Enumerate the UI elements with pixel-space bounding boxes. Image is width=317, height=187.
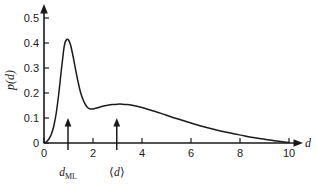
y-tick-label: 0.5 — [24, 12, 39, 24]
x-axis-tick-labels: 0 2 4 6 8 10 — [41, 147, 295, 159]
probability-density-curve — [44, 39, 289, 143]
annotation-label-dml: dML — [59, 166, 77, 181]
y-axis-tick-labels: 0 0.1 0.2 0.3 0.4 0.5 — [24, 12, 39, 149]
x-tick-label: 8 — [237, 147, 243, 159]
x-axis-title: d — [305, 136, 312, 150]
y-tick-label: 0.2 — [24, 87, 39, 99]
annotation-label-dmean-close: ⟩ — [120, 166, 125, 178]
x-tick-label: 10 — [283, 147, 295, 159]
y-tick-label: 0.3 — [24, 62, 39, 74]
y-axis — [40, 4, 48, 143]
y-tick-label: 0 — [33, 137, 39, 149]
y-axis-title-close: ) — [3, 70, 17, 75]
x-axis — [44, 139, 303, 147]
x-tick-label: 0 — [41, 147, 47, 159]
y-axis-title: p(d) — [3, 70, 17, 91]
y-tick-label: 0.4 — [24, 37, 39, 49]
x-tick-label: 6 — [188, 147, 194, 159]
annotation-label-dmean: ⟨d⟩ — [109, 166, 125, 178]
svg-text:p(d): p(d) — [3, 70, 17, 91]
x-tick-label: 4 — [139, 147, 145, 159]
chart-figure: 0 0.1 0.2 0.3 0.4 0.5 0 2 4 6 8 10 d — [0, 0, 317, 187]
annotation-label-dml-sub: ML — [65, 172, 77, 181]
annotation-arrow-dml — [65, 118, 72, 150]
y-tick-label: 0.1 — [24, 112, 39, 124]
annotation-arrow-dmean — [113, 118, 120, 150]
x-tick-label: 2 — [90, 147, 96, 159]
distribution-plot: 0 0.1 0.2 0.3 0.4 0.5 0 2 4 6 8 10 d — [0, 0, 317, 187]
